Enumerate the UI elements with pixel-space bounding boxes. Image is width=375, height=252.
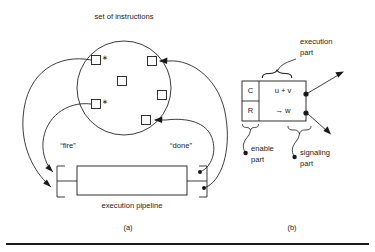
enable-part-brace	[243, 124, 259, 131]
pipeline-left-bracket	[57, 166, 65, 197]
execution-part-leader	[278, 59, 296, 70]
output-arrow-upper-line	[308, 74, 340, 93]
figure-container: set of instructions ∗ ∗	[0, 0, 375, 252]
enable-part-label-line2: part	[251, 155, 265, 164]
output-arrow-lower-line	[308, 114, 327, 131]
done-origin-dot-upper	[198, 170, 202, 174]
instruction-square-1	[92, 56, 101, 65]
output-arrowhead-lower	[323, 126, 331, 134]
execution-pipeline-box	[77, 166, 187, 195]
enable-part-leader-dot	[243, 151, 247, 155]
set-of-instructions-label: set of instructions	[94, 12, 153, 21]
cell-operation-top: u + v	[275, 86, 292, 95]
instruction-square-2	[92, 100, 101, 109]
instruction-square-5	[158, 91, 167, 100]
caption-b: (b)	[287, 223, 296, 232]
instruction-square-4	[148, 57, 157, 66]
instruction-square-3	[118, 77, 127, 86]
execution-pipeline-label: execution pipeline	[102, 201, 163, 210]
fire-label: “fire”	[60, 141, 76, 150]
signaling-part-leader-dot	[292, 155, 296, 159]
signaling-part-label-line2: part	[300, 159, 314, 168]
cell-operation-bottom: → w	[275, 106, 291, 115]
cell-control-top: C	[248, 86, 254, 95]
fire-arc-inner	[43, 104, 91, 172]
output-dot-upper	[303, 91, 308, 96]
execution-part-brace	[262, 70, 291, 78]
execution-part-label-line1: execution	[300, 37, 333, 46]
signaling-part-brace	[288, 126, 311, 134]
output-dot-lower	[303, 110, 308, 115]
done-label: “done”	[170, 141, 192, 150]
caption-a: (a)	[123, 223, 132, 232]
instruction-star-2: ∗	[102, 97, 108, 106]
figure-svg: set of instructions ∗ ∗	[0, 0, 375, 252]
signaling-part-label-line1: signaling	[300, 148, 330, 157]
execution-part-label-line2: part	[300, 48, 314, 57]
instruction-markers: ∗ ∗	[92, 53, 167, 125]
enable-part-leader	[243, 131, 250, 153]
output-arrowhead-upper	[335, 72, 344, 78]
signaling-part-leader	[292, 134, 299, 156]
panel-a: set of instructions ∗ ∗	[23, 12, 228, 232]
done-origin-dot-lower	[202, 186, 206, 190]
instruction-square-6	[142, 116, 151, 125]
fire-arrowhead-inner	[45, 164, 53, 172]
instruction-star-1: ∗	[102, 53, 108, 62]
panel-b: C R u + v → w execution part enable part	[242, 37, 344, 232]
enable-part-label-line1: enable	[251, 144, 274, 153]
cell-control-bottom: R	[248, 106, 254, 115]
